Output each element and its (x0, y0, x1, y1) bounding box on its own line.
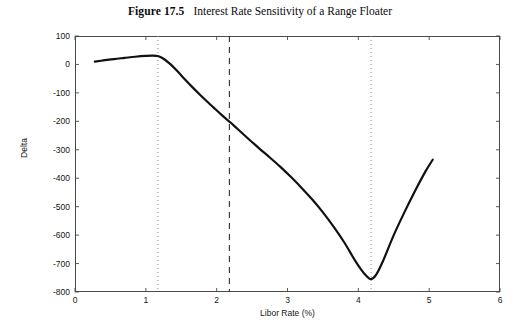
y-tick-label: -800 (53, 287, 70, 297)
x-tick-label: 4 (356, 295, 361, 305)
figure-container: Figure 17.5Interest Rate Sensitivity of … (0, 0, 520, 323)
y-tick-label: 100 (56, 31, 70, 41)
y-tick-label: -700 (53, 259, 70, 269)
x-tick-label: 1 (143, 295, 148, 305)
x-tick-label: 2 (214, 295, 219, 305)
x-tick-label: 6 (498, 295, 503, 305)
x-tick-label: 3 (285, 295, 290, 305)
annotation-lines (158, 36, 371, 292)
y-tick-label: -200 (53, 116, 70, 126)
x-tick-label: 5 (427, 295, 432, 305)
x-tick-label: 0 (73, 295, 78, 305)
axis-ticks (75, 36, 500, 292)
figure-number: Figure 17.5 (128, 5, 184, 17)
y-axis-label: Delta (19, 138, 29, 158)
y-tick-label: -600 (53, 230, 70, 240)
delta-curve (95, 56, 433, 280)
figure-caption: Interest Rate Sensitivity of a Range Flo… (193, 5, 392, 17)
chart-canvas (75, 36, 500, 292)
y-tick-label: -400 (53, 173, 70, 183)
plot-area: 1000-100-200-300-400-500-600-700-800 012… (75, 36, 500, 292)
y-tick-label: -100 (53, 88, 70, 98)
y-tick-label: 0 (65, 59, 70, 69)
x-axis-label: Libor Rate (%) (75, 308, 500, 318)
figure-title: Figure 17.5Interest Rate Sensitivity of … (0, 5, 520, 17)
y-tick-label: -500 (53, 202, 70, 212)
y-tick-label: -300 (53, 145, 70, 155)
